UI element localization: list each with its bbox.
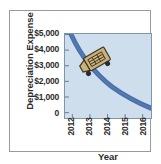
y-tick-label: $5,000 bbox=[20, 28, 59, 38]
y-tick-label: 0 bbox=[20, 108, 59, 118]
x-tick-label: 2016 bbox=[138, 113, 149, 141]
y-tick-label: $2,000 bbox=[20, 76, 59, 86]
y-tick-label: $3,000 bbox=[20, 60, 59, 70]
y-tick-label: $4,000 bbox=[20, 44, 59, 54]
x-tick-label: 2012 bbox=[66, 113, 77, 141]
x-tick-label: 2014 bbox=[102, 113, 113, 141]
x-axis-title: Year bbox=[64, 151, 152, 162]
y-axis-tick-labels: $5,000 $4,000 $3,000 $2,000 $1,000 0 bbox=[20, 33, 59, 119]
x-axis-tick-labels: 2012 2013 2014 2015 2016 bbox=[64, 121, 152, 149]
x-tick-label: 2013 bbox=[84, 113, 95, 141]
plot-area bbox=[64, 33, 152, 119]
chart-figure: Depreciation Expense $5,000 $4,000 $3,00… bbox=[0, 0, 161, 164]
plot-canvas bbox=[65, 34, 151, 118]
x-tick-label: 2015 bbox=[120, 113, 131, 141]
y-tick-label: $1,000 bbox=[20, 92, 59, 102]
figure-frame: Depreciation Expense $5,000 $4,000 $3,00… bbox=[9, 10, 151, 152]
y-tick-marks bbox=[65, 34, 69, 112]
